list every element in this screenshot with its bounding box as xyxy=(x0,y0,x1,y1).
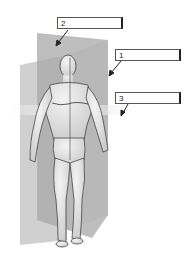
label-box-2[interactable]: 2 xyxy=(57,17,123,29)
label-box-3[interactable]: 3 xyxy=(115,92,181,104)
label-number-1: 1 xyxy=(119,51,123,60)
body-planes-illustration xyxy=(0,0,193,260)
label-number-2: 2 xyxy=(61,19,65,28)
label-number-3: 3 xyxy=(119,94,123,103)
anatomy-diagram: 2 1 3 xyxy=(0,0,193,260)
label-box-1[interactable]: 1 xyxy=(115,49,181,61)
